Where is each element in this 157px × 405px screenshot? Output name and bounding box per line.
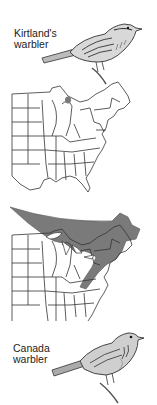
kirtlands-range-area (65, 97, 71, 104)
kirtlands-range-map (0, 80, 157, 195)
kirtlands-warbler-illustration (0, 0, 157, 85)
canada-warbler-illustration (0, 315, 157, 405)
canada-range-map (0, 195, 157, 325)
